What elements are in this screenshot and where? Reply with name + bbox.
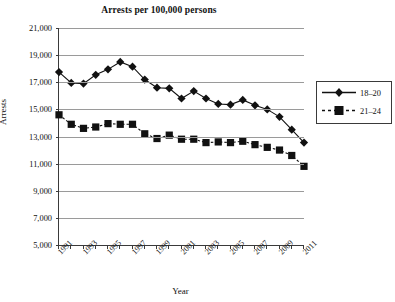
data-point-diamond-icon (92, 71, 100, 79)
y-tick-label: 21,000 (6, 24, 52, 33)
legend-marker-square-icon (321, 102, 357, 119)
data-point-square-icon (117, 121, 124, 128)
y-tick-label: 9,000 (6, 186, 52, 195)
gridline (59, 137, 304, 138)
gridline (59, 55, 304, 56)
arrests-line-chart: Arrests per 100,000 persons Arrests 21,0… (0, 0, 395, 302)
data-point-diamond-icon (79, 80, 87, 88)
plot-area (58, 28, 304, 246)
data-point-square-icon (264, 144, 271, 151)
y-tick-label: 5,000 (6, 241, 52, 250)
legend-label-18-20: 18–20 (360, 88, 381, 97)
data-point-square-icon (166, 132, 173, 139)
x-axis-tick-labels: 1991199319951997199920012003200520072009… (58, 250, 303, 286)
gridline (59, 82, 304, 83)
legend-item-18-20[interactable]: 18–20 (317, 84, 391, 101)
data-point-square-icon (129, 121, 136, 128)
data-point-diamond-icon (239, 96, 247, 104)
gridline (59, 109, 304, 110)
data-point-diamond-icon (116, 58, 124, 66)
data-point-diamond-icon (251, 101, 259, 109)
legend-label-21-24: 21–24 (360, 106, 381, 115)
data-point-square-icon (251, 141, 258, 148)
y-tick-label: 19,000 (6, 51, 52, 60)
y-tick-label: 17,000 (6, 78, 52, 87)
data-point-diamond-icon (153, 84, 161, 92)
gridline (59, 164, 304, 165)
data-point-diamond-icon (214, 100, 222, 108)
legend-marker-diamond-icon (321, 84, 357, 101)
gridline (59, 28, 304, 29)
y-tick-label: 13,000 (6, 132, 52, 141)
y-axis-tick-labels: 21,00019,00017,00015,00013,00011,0009,00… (6, 28, 52, 245)
data-point-diamond-icon (226, 101, 234, 109)
data-point-diamond-icon (104, 65, 112, 73)
data-point-square-icon (276, 146, 283, 153)
legend-item-21-24[interactable]: 21–24 (317, 102, 391, 119)
data-point-square-icon (215, 138, 222, 145)
chart-title: Arrests per 100,000 persons (0, 5, 318, 15)
data-point-square-icon (202, 139, 209, 146)
data-point-square-icon (80, 125, 87, 132)
data-point-diamond-icon (202, 94, 210, 102)
x-axis-label: Year (58, 286, 303, 296)
data-point-square-icon (227, 139, 234, 146)
data-point-square-icon (92, 123, 99, 130)
y-tick-label: 11,000 (6, 159, 52, 168)
gridline (59, 218, 304, 219)
data-point-square-icon (239, 138, 246, 145)
gridline (59, 191, 304, 192)
data-point-square-icon (55, 111, 62, 118)
chart-legend: 18–20 21–24 (316, 81, 392, 124)
data-point-square-icon (104, 120, 111, 127)
data-point-square-icon (288, 152, 295, 159)
data-point-diamond-icon (190, 87, 198, 95)
y-tick-label: 15,000 (6, 105, 52, 114)
data-point-square-icon (68, 121, 75, 128)
y-tick-label: 7,000 (6, 213, 52, 222)
